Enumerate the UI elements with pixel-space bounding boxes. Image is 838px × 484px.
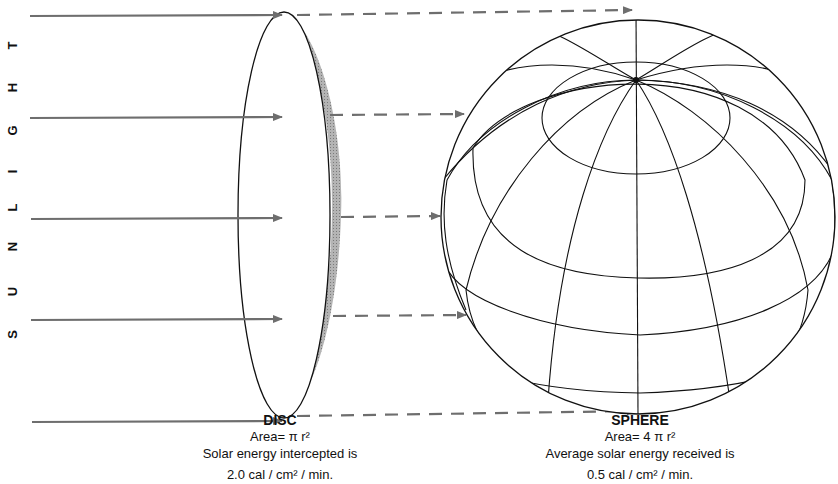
- sphere-area: Area= 4 π r²: [500, 428, 780, 445]
- disc-description: Solar energy intercepted is: [160, 445, 400, 462]
- sunlight-letter-i: I: [5, 163, 20, 181]
- disc-caption: DISC Area= π r² Solar energy intercepted…: [160, 413, 400, 483]
- sunlight-letter-n: N: [5, 238, 20, 256]
- sphere-shape: [441, 10, 835, 414]
- sunlight-letter-h: H: [5, 79, 20, 97]
- projection-arrow-3: [341, 216, 440, 217]
- sunlight-arrows: [30, 15, 282, 422]
- sunlight-letter-u: U: [5, 283, 20, 301]
- projection-arrow-4: [333, 315, 466, 316]
- sunlight-letter-l: L: [5, 199, 20, 217]
- disc-area: Area= π r²: [160, 428, 400, 445]
- sunlight-letter-s: S: [5, 326, 20, 344]
- sunlight-arrow-4: [31, 319, 282, 320]
- disc-sphere-diagram: [0, 0, 838, 484]
- disc-value: 2.0 cal / cm² / min.: [160, 466, 400, 483]
- sunlight-letter-t: T: [5, 37, 20, 55]
- projection-arrow-2: [330, 114, 464, 115]
- disc-shape: [238, 12, 341, 418]
- sphere-description: Average solar energy received is: [500, 445, 780, 462]
- disc-title: DISC: [160, 413, 400, 428]
- sphere-value: 0.5 cal / cm² / min.: [500, 466, 780, 483]
- projection-arrow-1: [297, 10, 632, 15]
- sphere-caption: SPHERE Area= 4 π r² Average solar energy…: [500, 413, 780, 483]
- sunlight-arrow-1: [30, 15, 282, 16]
- sunlight-letter-g: G: [5, 122, 20, 140]
- sunlight-arrow-3: [31, 218, 282, 219]
- sunlight-arrow-2: [30, 117, 282, 118]
- sphere-title: SPHERE: [500, 413, 780, 428]
